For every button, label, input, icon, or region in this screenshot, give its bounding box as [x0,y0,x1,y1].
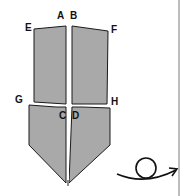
label-h: H [111,96,118,107]
upper-left-flap [34,26,66,104]
label-a: A [57,10,64,21]
label-b: B [70,10,77,21]
origami-diagram: A B E F G H C D [0,0,187,196]
label-d: D [72,110,79,121]
label-g: G [15,94,23,105]
upper-right-flap [72,26,108,104]
label-e: E [25,22,32,33]
label-c: C [59,110,66,121]
label-f: F [111,24,117,35]
turn-over-arrow-icon [117,158,177,179]
